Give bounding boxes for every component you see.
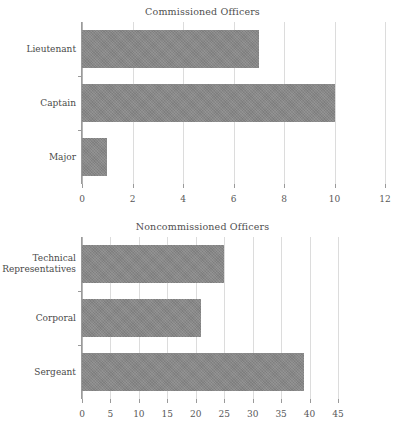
bar-lieutenant	[82, 30, 259, 68]
x-tick-mark	[82, 184, 83, 188]
x-tick-label: 6	[231, 194, 237, 204]
category-label: Corporal	[0, 313, 76, 324]
bar-corporal	[82, 299, 201, 337]
x-tick-label: 2	[130, 194, 136, 204]
bar-major	[82, 138, 107, 176]
x-tick-mark	[284, 184, 285, 188]
x-tick-mark	[110, 399, 111, 403]
chart-title-noncommissioned: Noncommissioned Officers	[0, 221, 405, 232]
x-tick-label: 15	[162, 409, 173, 419]
x-tick-label: 0	[79, 194, 85, 204]
x-tick-mark	[224, 399, 225, 403]
chart-title-commissioned: Commissioned Officers	[0, 6, 405, 17]
bar-technical-representatives	[82, 245, 224, 283]
bar-sergeant	[82, 353, 304, 391]
x-gridline	[335, 22, 336, 184]
x-tick-label: 20	[190, 409, 201, 419]
x-tick-label: 5	[108, 409, 114, 419]
plot-area-noncommissioned: 051015202530354045Technical Representati…	[82, 237, 338, 399]
x-tick-label: 12	[379, 194, 390, 204]
x-tick-label: 10	[133, 409, 144, 419]
x-tick-mark	[133, 184, 134, 188]
x-gridline	[310, 237, 311, 399]
x-gridline	[385, 22, 386, 184]
x-gridline	[338, 237, 339, 399]
x-tick-label: 35	[275, 409, 286, 419]
category-label: Technical Representatives	[0, 253, 76, 275]
x-tick-mark	[310, 399, 311, 403]
x-tick-label: 10	[329, 194, 340, 204]
x-tick-mark	[139, 399, 140, 403]
x-tick-mark	[338, 399, 339, 403]
commissioned-officers-chart: Commissioned Officers 024681012Lieutenan…	[0, 0, 405, 215]
plot-area-commissioned: 024681012LieutenantCaptainMajor	[82, 22, 385, 184]
category-label: Major	[0, 152, 76, 163]
y-tick-mark	[78, 291, 82, 292]
x-tick-mark	[183, 184, 184, 188]
category-label: Captain	[0, 98, 76, 109]
x-tick-label: 45	[332, 409, 343, 419]
x-tick-mark	[281, 399, 282, 403]
x-tick-label: 30	[247, 409, 258, 419]
noncommissioned-officers-chart: Noncommissioned Officers 051015202530354…	[0, 215, 405, 430]
x-tick-mark	[335, 184, 336, 188]
x-tick-mark	[253, 399, 254, 403]
bar-captain	[82, 84, 335, 122]
x-tick-label: 25	[218, 409, 229, 419]
x-tick-mark	[385, 184, 386, 188]
y-tick-mark	[78, 130, 82, 131]
y-tick-mark	[78, 76, 82, 77]
y-tick-mark	[78, 345, 82, 346]
x-tick-mark	[234, 184, 235, 188]
x-tick-mark	[167, 399, 168, 403]
x-tick-mark	[82, 399, 83, 403]
x-tick-label: 0	[79, 409, 85, 419]
category-label: Lieutenant	[0, 44, 76, 55]
category-label: Sergeant	[0, 367, 76, 378]
x-tick-label: 4	[180, 194, 186, 204]
x-tick-label: 40	[304, 409, 315, 419]
x-tick-mark	[196, 399, 197, 403]
x-tick-label: 8	[281, 194, 287, 204]
